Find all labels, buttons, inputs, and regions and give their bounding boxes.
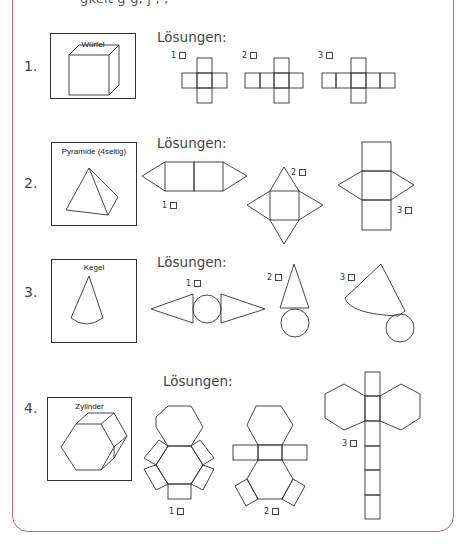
cube-net-1-icon: [182, 58, 227, 103]
pyramid-net-2-icon: [247, 167, 323, 244]
cone-net-3-icon: [345, 264, 414, 342]
pyramid-net-1-icon: [142, 162, 247, 191]
pyramid-net-3-icon: [338, 142, 414, 230]
cube-net-2-icon: [245, 58, 303, 103]
hex-prism-net-1-icon: [144, 406, 214, 499]
cone-net-2-icon: [280, 264, 309, 337]
hex-prism-net-2-icon: [233, 406, 307, 506]
cube-net-3-icon: [322, 58, 395, 103]
cube-3d-icon: [69, 45, 119, 95]
diagram-art: [0, 0, 464, 544]
cone-net-1-icon: [151, 294, 265, 323]
hex-prism-3d-icon: [61, 413, 127, 470]
cone-3d-icon: [71, 276, 103, 324]
hex-prism-net-3-icon: [325, 372, 420, 519]
pyramid-3d-icon: [66, 168, 118, 215]
